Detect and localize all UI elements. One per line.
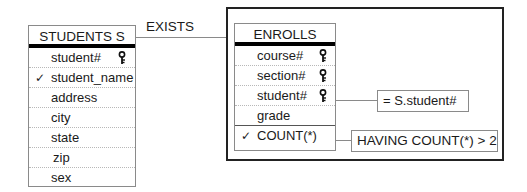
exists-label: EXISTS bbox=[146, 19, 194, 34]
key-icon bbox=[318, 49, 328, 63]
students-row-state[interactable]: state bbox=[29, 128, 135, 148]
field-label: student_name bbox=[51, 70, 133, 85]
field-label: city bbox=[51, 110, 71, 125]
exists-connector-line bbox=[135, 37, 227, 38]
enrolls-row-grade[interactable]: grade bbox=[235, 106, 335, 126]
enrolls-table[interactable]: ENROLLS course# section# student# grade … bbox=[234, 23, 336, 151]
field-label: address bbox=[51, 90, 97, 105]
field-label: state bbox=[51, 130, 79, 145]
field-label: student# bbox=[257, 88, 307, 103]
students-table[interactable]: STUDENTS S student# ✓ student_name addre… bbox=[28, 25, 136, 187]
student-condition-box[interactable]: = S.student# bbox=[377, 90, 469, 112]
enrolls-row-course-id[interactable]: course# bbox=[235, 46, 335, 66]
check-icon: ✓ bbox=[35, 68, 45, 88]
students-row-city[interactable]: city bbox=[29, 108, 135, 128]
field-label: grade bbox=[257, 108, 290, 123]
key-icon bbox=[117, 51, 127, 65]
enrolls-row-section-id[interactable]: section# bbox=[235, 66, 335, 86]
student-condition-line bbox=[336, 100, 377, 101]
field-label: zip bbox=[51, 150, 70, 165]
field-label: student# bbox=[51, 50, 101, 65]
having-condition-box[interactable]: HAVING COUNT(*) > 2 bbox=[351, 130, 498, 152]
check-icon: ✓ bbox=[241, 126, 251, 146]
students-row-zip[interactable]: zip bbox=[29, 148, 135, 168]
key-icon bbox=[318, 69, 328, 83]
students-row-student-name[interactable]: ✓ student_name bbox=[29, 68, 135, 88]
field-label: course# bbox=[257, 48, 303, 63]
students-table-title: STUDENTS S bbox=[29, 26, 135, 48]
having-condition-line bbox=[336, 140, 351, 141]
field-label: sex bbox=[51, 170, 71, 185]
enrolls-table-title: ENROLLS bbox=[235, 24, 335, 46]
field-label: section# bbox=[257, 68, 305, 83]
students-row-address[interactable]: address bbox=[29, 88, 135, 108]
students-row-student-id[interactable]: student# bbox=[29, 48, 135, 68]
enrolls-row-count[interactable]: ✓ COUNT(*) bbox=[235, 126, 335, 146]
key-icon bbox=[318, 89, 328, 103]
students-row-sex[interactable]: sex bbox=[29, 168, 135, 188]
field-label: COUNT(*) bbox=[257, 128, 317, 143]
enrolls-row-student-id[interactable]: student# bbox=[235, 86, 335, 106]
